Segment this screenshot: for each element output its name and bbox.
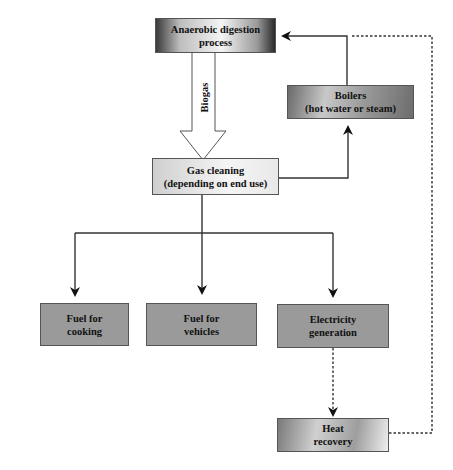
node-label: Anaerobic digestion	[171, 24, 260, 35]
node-gas-cleaning: Gas cleaning(depending on end use)	[152, 158, 279, 195]
node-label: Fuel for	[184, 313, 220, 324]
node-boilers: Boilers(hot water or steam)	[287, 85, 414, 119]
node-fuel-for-cooking: Fuel forcooking	[40, 303, 129, 346]
node-label: generation	[309, 327, 357, 338]
node-label: (hot water or steam)	[305, 103, 396, 114]
node-label: Electricity	[310, 314, 357, 325]
connector-lines	[0, 0, 453, 470]
node-label: Fuel for	[67, 313, 103, 324]
node-anaerobic-digestion: Anaerobic digestionprocess	[155, 18, 276, 53]
node-label: recovery	[314, 436, 353, 447]
node-label: process	[199, 37, 232, 48]
node-heat-recovery: Heatrecovery	[277, 418, 389, 452]
biogas-label: Biogas	[199, 78, 210, 118]
edge-gas-cleaning-to-boilers	[278, 130, 348, 178]
node-fuel-for-vehicles: Fuel forvehicles	[146, 303, 257, 346]
node-electricity-generation: Electricitygeneration	[277, 304, 389, 348]
node-label: Heat	[322, 423, 344, 434]
node-label: Boilers	[335, 90, 367, 101]
node-label: vehicles	[184, 326, 219, 337]
node-label: cooking	[67, 326, 102, 337]
node-label: Gas cleaning	[187, 165, 244, 176]
edge-boilers-to-anaerobic	[286, 36, 347, 85]
node-label: (depending on end use)	[164, 178, 268, 189]
